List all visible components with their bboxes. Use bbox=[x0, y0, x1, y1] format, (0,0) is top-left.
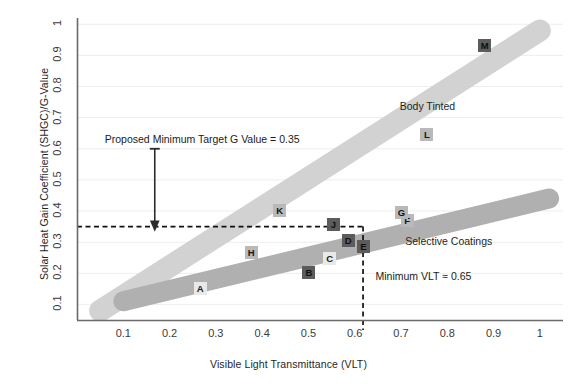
x-tick-label: 0.4 bbox=[250, 327, 274, 339]
y-tick-label: 0.1 bbox=[51, 291, 63, 315]
trend-bands bbox=[100, 30, 549, 310]
data-point-k: K bbox=[273, 204, 286, 217]
x-tick-label: 0.8 bbox=[435, 327, 459, 339]
chart-container: 0.10.20.30.40.50.60.70.80.91 0.10.20.30.… bbox=[0, 0, 574, 386]
data-point-c: C bbox=[323, 252, 336, 265]
data-point-m: M bbox=[478, 39, 491, 52]
y-tick-label: 0.7 bbox=[51, 105, 63, 129]
band-body-tinted bbox=[100, 30, 540, 310]
x-tick-label: 0.2 bbox=[158, 327, 182, 339]
data-point-d: D bbox=[342, 234, 355, 247]
y-tick-label: 0.6 bbox=[51, 136, 63, 160]
y-tick-label: 0.3 bbox=[51, 229, 63, 253]
y-tick-label: 0.9 bbox=[51, 42, 63, 66]
x-tick-label: 0.5 bbox=[296, 327, 320, 339]
x-tick-label: 0.1 bbox=[111, 327, 135, 339]
x-tick-label: 0.6 bbox=[343, 327, 367, 339]
data-point-a: A bbox=[194, 282, 207, 295]
data-point-j: J bbox=[327, 218, 340, 231]
x-tick-label: 0.7 bbox=[389, 327, 413, 339]
y-tick-label: 1 bbox=[51, 11, 63, 35]
annotation-minimum-vlt: Minimum VLT ≈ 0.65 bbox=[376, 270, 472, 282]
y-tick-label: 0.5 bbox=[51, 167, 63, 191]
data-point-l: L bbox=[420, 128, 433, 141]
data-point-h: H bbox=[245, 246, 258, 259]
x-tick-label: 0.3 bbox=[204, 327, 228, 339]
data-point-e: E bbox=[357, 240, 370, 253]
annotation-target-g-value: Proposed Minimum Target G Value = 0.35 bbox=[105, 133, 300, 145]
band-label-selective-coatings: Selective Coatings bbox=[405, 235, 492, 247]
y-tick-label: 0.8 bbox=[51, 73, 63, 97]
data-point-g: G bbox=[395, 206, 408, 219]
x-tick-label: 1 bbox=[528, 327, 552, 339]
x-axis-title: Visible Light Transmittance (VLT) bbox=[210, 358, 367, 370]
band-label-body-tinted: Body Tinted bbox=[400, 100, 455, 112]
y-tick-label: 0.4 bbox=[51, 198, 63, 222]
y-axis-title: Solar Heat Gain Coefficient (SHGC)/G-Val… bbox=[38, 44, 50, 304]
x-tick-label: 0.9 bbox=[482, 327, 506, 339]
data-point-b: B bbox=[302, 266, 315, 279]
y-tick-label: 0.2 bbox=[51, 260, 63, 284]
